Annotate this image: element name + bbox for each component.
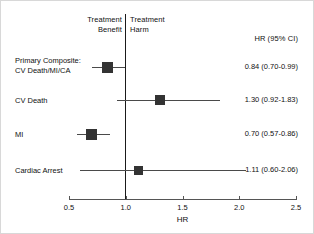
forest-plot-figure: Treatment Benefit Treatment Harm HR (95%… xyxy=(0,0,314,234)
row-estimate-text: 1.11 (0.60-2.06) xyxy=(206,165,298,175)
x-axis-tick-label: 1.0 xyxy=(106,203,146,212)
row-label: MI xyxy=(15,130,23,140)
row-estimate-text: 0.84 (0.70-0.99) xyxy=(206,62,298,72)
x-axis-tick xyxy=(69,196,70,200)
row-estimate-text: 0.70 (0.57-0.86) xyxy=(206,129,298,139)
x-axis-tick-label: 1.5 xyxy=(163,203,203,212)
x-axis-tick-label: 0.5 xyxy=(49,203,89,212)
null-reference-line xyxy=(125,14,126,199)
row-label: Primary Composite: CV Death/MI/CA xyxy=(15,56,81,75)
x-axis-tick-label: 2.5 xyxy=(276,203,314,212)
treatment-harm-label: Treatment Harm xyxy=(130,15,200,34)
plot-area: Treatment Benefit Treatment Harm HR (95%… xyxy=(1,1,314,234)
row-estimate-text: 1.30 (0.92-1.83) xyxy=(206,95,298,105)
point-estimate-marker xyxy=(102,62,113,73)
row-label: Cardiac Arrest xyxy=(15,166,63,176)
x-axis-tick xyxy=(183,196,184,200)
point-estimate-marker xyxy=(86,129,97,140)
x-axis-tick xyxy=(296,196,297,200)
point-estimate-marker xyxy=(134,166,143,175)
hr-ci-column-header: HR (95% CI) xyxy=(206,34,298,44)
x-axis-tick xyxy=(126,196,127,200)
confidence-interval-whisker xyxy=(117,100,220,101)
point-estimate-marker xyxy=(155,95,165,105)
x-axis-tick-label: 2.0 xyxy=(219,203,259,212)
x-axis-tick xyxy=(239,196,240,200)
x-axis-title: HR xyxy=(69,215,296,224)
row-label: CV Death xyxy=(15,96,48,106)
treatment-benefit-label: Treatment Benefit xyxy=(63,15,122,34)
